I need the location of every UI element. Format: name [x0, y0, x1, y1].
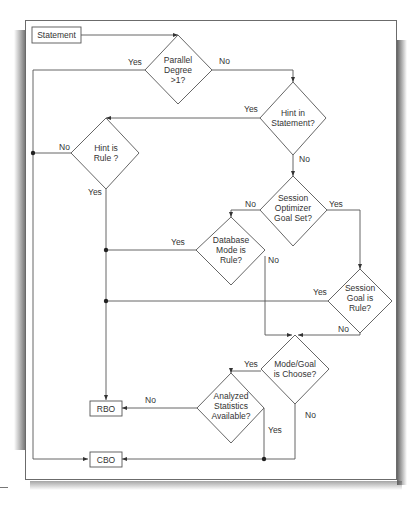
label-session-opt-yes: Yes: [329, 199, 343, 209]
label-hint-rule-yes: Yes: [88, 187, 102, 197]
label-session-goal-no: No: [338, 324, 349, 334]
node-hint-in-statement: Hint in Statement?: [260, 82, 326, 155]
svg-text:Analyzed: Analyzed: [214, 391, 249, 401]
svg-text:Statistics: Statistics: [214, 401, 248, 411]
label-analyzed-yes: Yes: [268, 425, 282, 435]
svg-text:CBO: CBO: [97, 455, 116, 465]
label-session-goal-yes: Yes: [313, 287, 327, 297]
svg-text:Hint is: Hint is: [94, 143, 118, 153]
diagram-stage: Statement Parallel Degree >1? Hint in St…: [0, 0, 418, 507]
svg-text:Statement: Statement: [37, 30, 76, 40]
svg-text:Available?: Available?: [211, 411, 250, 421]
svg-text:Degree: Degree: [164, 65, 192, 75]
node-rbo: RBO: [90, 401, 122, 416]
svg-text:Database: Database: [213, 235, 250, 245]
svg-text:Goal Set?: Goal Set?: [274, 213, 312, 223]
connector-lines: [33, 35, 360, 459]
node-hint-is-rule: Hint is Rule ?: [71, 118, 139, 189]
label-mode-goal-no: No: [305, 410, 316, 420]
label-hint-statement-yes: Yes: [244, 104, 258, 114]
svg-text:Rule?: Rule?: [220, 255, 242, 265]
svg-text:Optimizer: Optimizer: [275, 203, 312, 213]
svg-text:Parallel: Parallel: [164, 55, 192, 65]
svg-text:Rule?: Rule?: [349, 303, 371, 313]
node-parallel-degree: Parallel Degree >1?: [145, 35, 212, 104]
svg-text:Mode/Goal: Mode/Goal: [274, 359, 316, 369]
label-session-opt-no: No: [245, 199, 256, 209]
svg-text:Session: Session: [278, 193, 309, 203]
label-parallel-yes: Yes: [128, 57, 142, 67]
svg-text:Rule ?: Rule ?: [94, 153, 119, 163]
flowchart: Statement Parallel Degree >1? Hint in St…: [0, 0, 418, 507]
svg-text:Mode is: Mode is: [216, 245, 246, 255]
svg-text:>1?: >1?: [171, 75, 186, 85]
node-cbo: CBO: [90, 452, 122, 467]
label-mode-goal-yes: Yes: [244, 359, 258, 369]
label-hint-statement-no: No: [299, 154, 310, 164]
node-analyzed-statistics-available: Analyzed Statistics Available?: [197, 373, 264, 443]
label-hint-rule-no: No: [59, 142, 70, 152]
label-analyzed-no: No: [145, 395, 156, 405]
svg-text:Hint in: Hint in: [281, 108, 305, 118]
label-parallel-no: No: [219, 56, 230, 66]
node-statement: Statement: [32, 27, 81, 43]
node-session-optimizer-goal-set: Session Optimizer Goal Set?: [260, 176, 327, 246]
svg-text:is Choose?: is Choose?: [274, 369, 317, 379]
label-db-mode-no: No: [268, 255, 279, 265]
label-db-mode-yes: Yes: [171, 237, 185, 247]
node-database-mode-is-rule: Database Mode is Rule?: [196, 217, 265, 285]
svg-text:Goal is: Goal is: [347, 293, 373, 303]
svg-text:Session: Session: [345, 283, 376, 293]
svg-text:RBO: RBO: [97, 404, 116, 414]
node-mode-goal-is-choose: Mode/Goal is Choose?: [261, 335, 329, 404]
svg-text:Statement?: Statement?: [271, 118, 315, 128]
